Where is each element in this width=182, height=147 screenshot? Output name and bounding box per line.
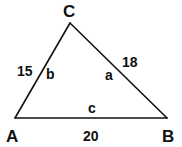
side-c-letter: c (88, 100, 96, 116)
side-a-edge (70, 23, 167, 118)
side-b-length: 15 (17, 63, 33, 79)
side-a-letter: a (105, 67, 113, 83)
side-a-length: 18 (122, 54, 138, 70)
vertex-a-label: A (6, 127, 18, 146)
side-c-length: 20 (83, 128, 99, 144)
side-b-letter: b (46, 66, 55, 82)
triangle-diagram: C A B 15 b 18 a c 20 (0, 0, 182, 147)
vertex-b-label: B (162, 127, 174, 146)
vertex-c-label: C (63, 2, 75, 21)
